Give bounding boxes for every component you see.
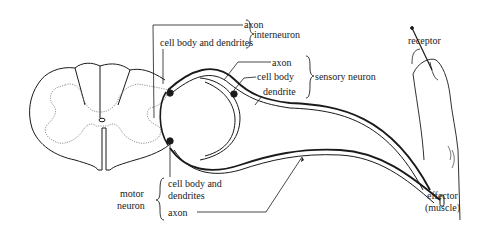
motor-cellbody-label-1: cell body and [168,178,222,189]
receptor-label: receptor [408,35,441,46]
spinal-cord-outline [30,63,172,170]
sensory-neuron-path [168,69,430,190]
sensory-brace [306,56,314,98]
receptor-pointer [412,49,420,64]
motor-cell-body [167,138,173,144]
sensory-cell-body [231,91,237,97]
interneuron-cell-body [167,90,173,96]
motor-neuron-label-1: motor [120,188,144,199]
dorsal-root-line-right [118,70,130,105]
sensory-cellbody-label: cell body [257,71,294,82]
interneuron-cellbody-label: cell body and dendrites [160,37,253,48]
sensory-axon-label: axon [272,57,291,68]
interneuron-label: interneuron [254,29,300,40]
gray-matter-outline [45,84,168,143]
motor-neuron-label-2: neuron [117,200,145,211]
motor-brace [156,178,164,220]
sensory-dendrite-label: dendrite [263,86,296,97]
sensory-dendrite-pointer [255,96,262,105]
effector-label-1: effector [427,190,458,201]
sensory-neuron-label: sensory neuron [315,71,376,82]
central-canal [99,118,105,122]
motor-axon-label: axon [168,207,187,218]
motor-cellbody-label-2: dendrites [168,190,205,201]
effector-label-2: (muscle) [425,202,460,213]
